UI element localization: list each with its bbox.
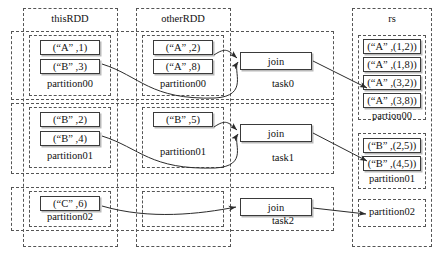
arrow-thisRDD-p01-to-join1: [102, 134, 238, 168]
arrow-join0-to-rs-p00: [313, 61, 367, 88]
arrow-join1-to-rs-p01: [313, 133, 367, 161]
arrow-thisRDD-p00-to-join0: [102, 62, 238, 98]
arrow-join2-to-rs-p02: [313, 208, 366, 214]
arrow-otherRDD-p01-to-join1: [214, 122, 237, 130]
rdd-join-diagram: thisRDD otherRDD rs (“A” ,1) (“B” ,3) pa…: [0, 0, 446, 255]
arrow-layer: [0, 0, 446, 255]
arrow-otherRDD-p00-to-join0: [214, 50, 237, 58]
arrow-thisRDD-p02-to-join2: [102, 206, 236, 214]
